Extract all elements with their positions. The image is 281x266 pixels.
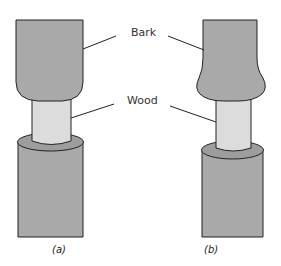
bark-label: Bark xyxy=(131,26,156,39)
wood-leader-b xyxy=(170,106,216,122)
upper-bark-a xyxy=(16,20,83,101)
caption-a: (a) xyxy=(52,244,66,255)
wood-core-b xyxy=(216,99,251,151)
upper-bark-b xyxy=(197,20,266,101)
bark-leader-a xyxy=(83,36,116,49)
caption-b: (b) xyxy=(204,244,218,255)
wood-label: Wood xyxy=(127,94,158,107)
panel-a xyxy=(16,20,84,237)
wood-core-a xyxy=(32,98,71,145)
lower-bark-cylinder-a xyxy=(18,143,83,237)
girdling-diagram xyxy=(0,0,281,266)
panel-b xyxy=(197,20,266,237)
lower-bark-cylinder-b xyxy=(202,151,263,237)
bark-leader-b xyxy=(168,36,204,50)
wood-leader-a xyxy=(71,104,114,118)
